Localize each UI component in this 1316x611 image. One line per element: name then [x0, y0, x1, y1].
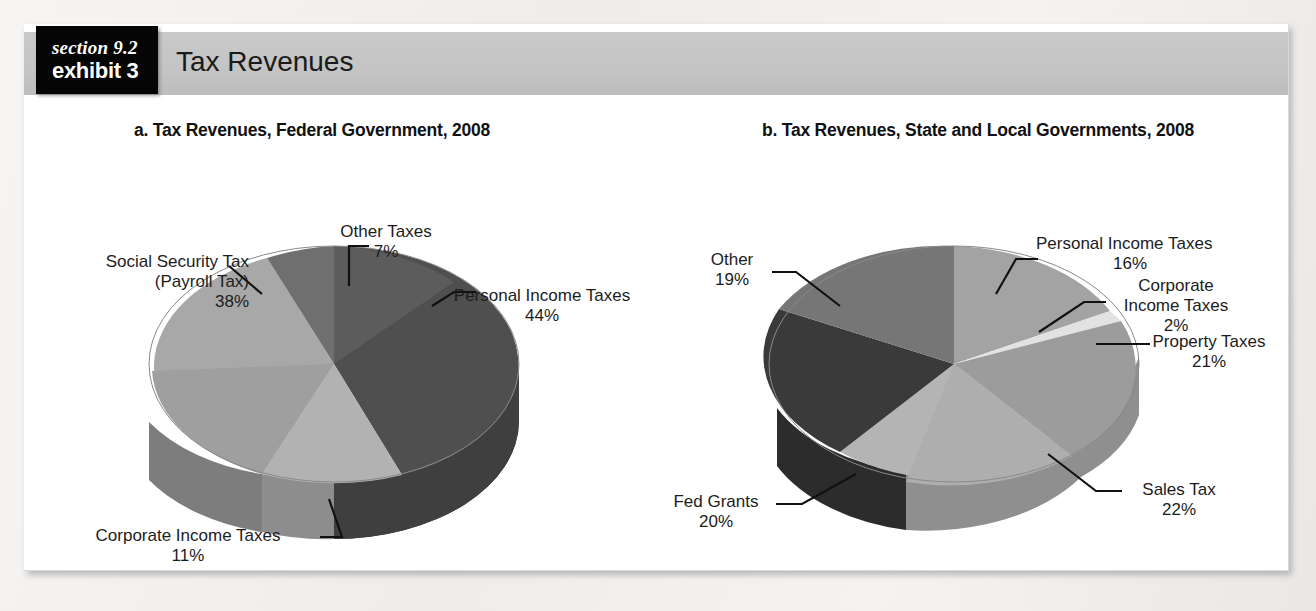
label-other-sl-line1: Other: [711, 250, 754, 269]
label-personal-income-pct: 44%: [442, 306, 642, 326]
label-personal-income: Personal Income Taxes 44%: [442, 286, 642, 326]
label-corporate-income-line1: Corporate Income Taxes: [96, 526, 281, 545]
label-fed-grants-line1: Fed Grants: [673, 492, 758, 511]
exhibit-page: section 9.2 exhibit 3 Tax Revenues a. Ta…: [0, 0, 1316, 611]
exhibit-label: exhibit 3: [52, 58, 158, 83]
label-personal-income-sl-line1: Personal Income Taxes: [1036, 234, 1212, 253]
label-corporate-income-sl-line1: Corporate: [1138, 276, 1214, 295]
label-social-security-line2: (Payroll Tax): [155, 272, 249, 291]
label-social-security: Social Security Tax (Payroll Tax) 38%: [34, 252, 249, 312]
label-personal-income-line1: Personal Income Taxes: [454, 286, 630, 305]
label-corporate-income-sl-line2: Income Taxes: [1124, 296, 1229, 315]
label-corporate-income-pct: 11%: [54, 546, 322, 566]
label-social-security-line1: Social Security Tax: [106, 252, 249, 271]
charts-area: a. Tax Revenues, Federal Government, 200…: [24, 104, 1288, 570]
label-other-taxes: Other Taxes 7%: [316, 222, 456, 262]
label-property-taxes: Property Taxes 21%: [1134, 332, 1284, 372]
label-property-taxes-pct: 21%: [1134, 352, 1284, 372]
chart-title-federal: a. Tax Revenues, Federal Government, 200…: [2, 120, 622, 141]
label-sales-tax: Sales Tax 22%: [1114, 480, 1244, 520]
chart-panel-state-local: b. Tax Revenues, State and Local Governm…: [644, 104, 1288, 570]
label-personal-income-sl-pct: 16%: [1036, 254, 1224, 274]
chart-panel-federal: a. Tax Revenues, Federal Government, 200…: [24, 104, 644, 570]
label-corporate-income: Corporate Income Taxes 11%: [54, 526, 322, 566]
label-property-taxes-line1: Property Taxes: [1152, 332, 1265, 351]
page-title: Tax Revenues: [176, 46, 353, 78]
label-personal-income-sl: Personal Income Taxes 16%: [1036, 234, 1266, 274]
label-other-sl-pct: 19%: [692, 270, 772, 290]
exhibit-badge: section 9.2 exhibit 3: [36, 26, 158, 94]
label-social-security-pct: 38%: [34, 292, 249, 312]
label-sales-tax-line1: Sales Tax: [1142, 480, 1215, 499]
chart-title-state-local: b. Tax Revenues, State and Local Governm…: [656, 120, 1300, 141]
pie-chart-federal: [24, 154, 644, 554]
label-sales-tax-pct: 22%: [1114, 500, 1244, 520]
label-other-taxes-pct: 7%: [316, 242, 456, 262]
label-corporate-income-sl: Corporate Income Taxes 2%: [1096, 276, 1256, 336]
exhibit-card: section 9.2 exhibit 3 Tax Revenues a. Ta…: [24, 24, 1289, 571]
section-label: section 9.2: [52, 38, 158, 58]
label-fed-grants-pct: 20%: [656, 512, 776, 532]
label-other-sl: Other 19%: [692, 250, 772, 290]
label-other-taxes-line1: Other Taxes: [340, 222, 431, 241]
label-fed-grants: Fed Grants 20%: [656, 492, 776, 532]
